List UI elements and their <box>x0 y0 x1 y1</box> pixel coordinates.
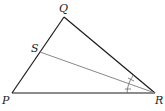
triangle-diagram: Q S P R <box>0 0 165 111</box>
label-r: R <box>154 94 163 107</box>
bisector-sr <box>40 52 155 93</box>
label-p: P <box>1 94 10 107</box>
label-q: Q <box>59 2 68 15</box>
label-s: S <box>31 42 39 55</box>
side-qr <box>64 17 155 93</box>
side-pq <box>12 17 64 93</box>
